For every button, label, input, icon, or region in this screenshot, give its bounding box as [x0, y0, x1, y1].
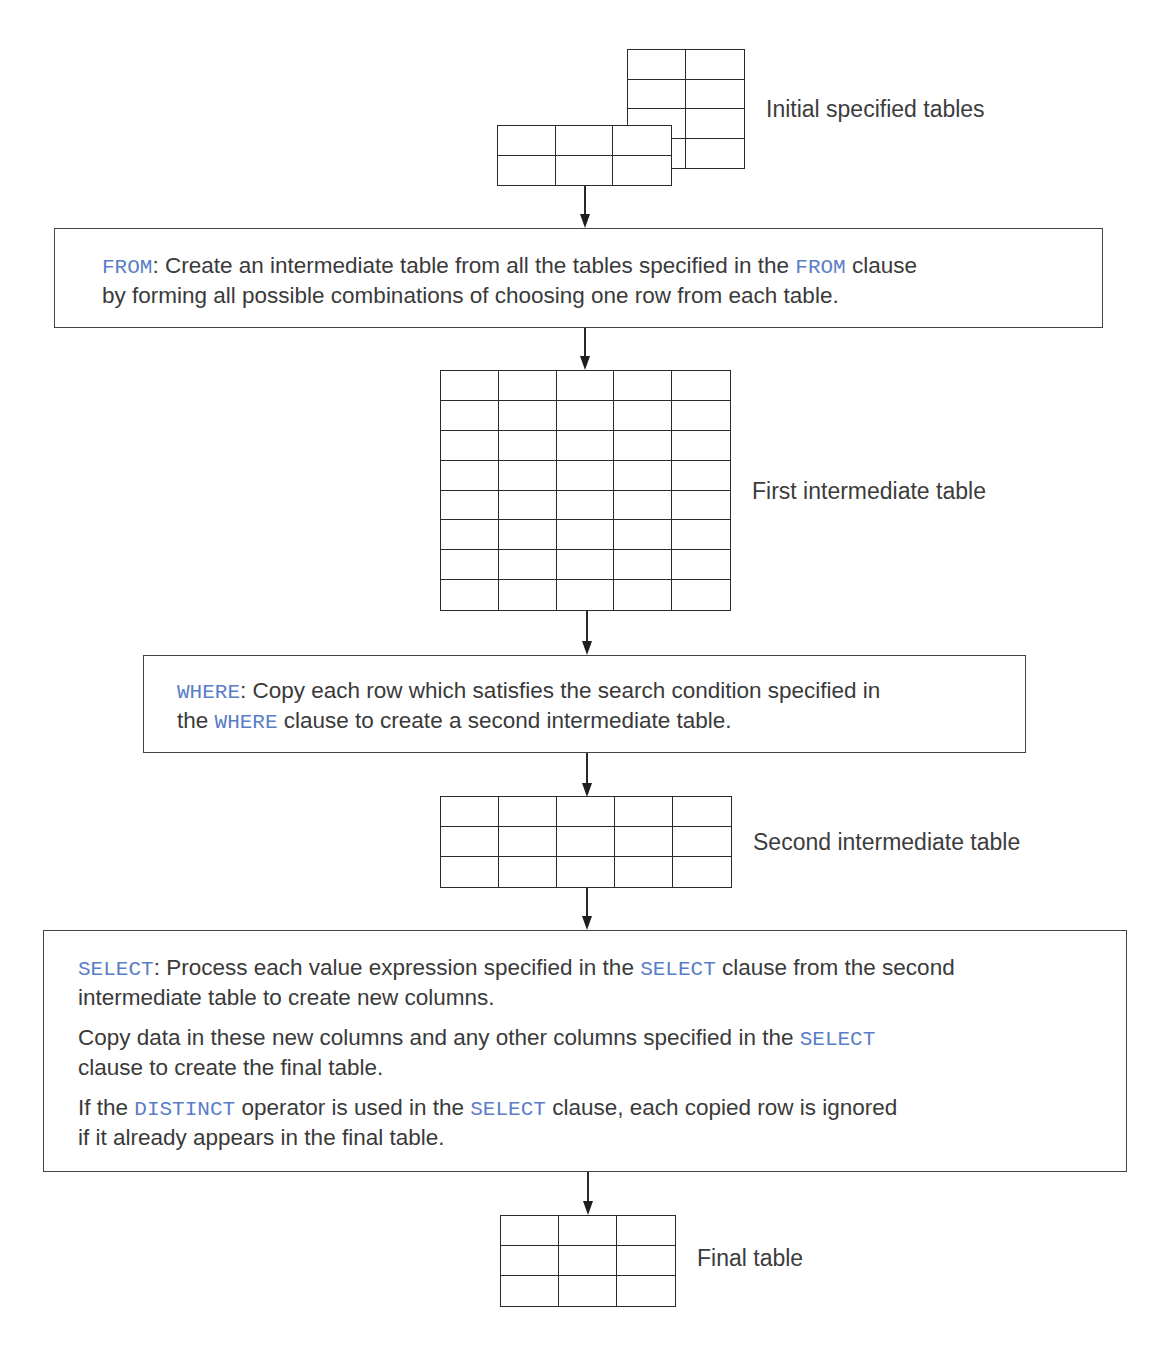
select-step-line-2: intermediate table to create new columns… [78, 984, 1126, 1012]
from-step-box: FROM: Create an intermediate table from … [54, 228, 1103, 328]
table-cell [559, 1216, 617, 1246]
arrowhead-icon [580, 356, 590, 370]
table-cell [556, 156, 614, 186]
table-cell [614, 491, 672, 521]
table-cell [441, 797, 499, 827]
table-cell [441, 580, 499, 610]
table-cell [441, 491, 499, 521]
select-text: clause, each copied row is ignored [546, 1095, 897, 1120]
table-cell [559, 1276, 617, 1306]
table-cell [672, 401, 730, 431]
table-cell [441, 857, 499, 887]
select-text: operator is used in the [235, 1095, 470, 1120]
table-cell [672, 580, 730, 610]
table-cell [499, 797, 557, 827]
arrowhead-icon [582, 641, 592, 655]
select-step-line-5: If the DISTINCT operator is used in the … [78, 1094, 1126, 1124]
table-cell [441, 431, 499, 461]
table-cell [557, 491, 615, 521]
table-cell [499, 371, 557, 401]
table-cell [628, 80, 686, 110]
where-step-line-1: WHERE: Copy each row which satisfies the… [177, 677, 1025, 707]
table-cell [673, 797, 731, 827]
table-cell [614, 520, 672, 550]
table-cell [686, 139, 744, 169]
first-intermediate-table [440, 370, 731, 611]
select-text: : Process each value expression specifie… [154, 955, 641, 980]
first-intermediate-label: First intermediate table [752, 478, 986, 505]
table-cell [686, 80, 744, 110]
table-cell [499, 491, 557, 521]
table-cell [557, 431, 615, 461]
table-cell [559, 1246, 617, 1276]
table-cell [615, 857, 673, 887]
table-cell [499, 520, 557, 550]
table-cell [441, 401, 499, 431]
select-keyword: SELECT [800, 1028, 876, 1051]
table-cell [672, 491, 730, 521]
select-text: If the [78, 1095, 134, 1120]
initial-tables-label: Initial specified tables [766, 96, 985, 123]
table-cell [614, 401, 672, 431]
table-cell [441, 827, 499, 857]
table-cell [672, 461, 730, 491]
final-table-label: Final table [697, 1245, 803, 1272]
where-keyword: WHERE [215, 711, 278, 734]
table-cell [614, 550, 672, 580]
table-cell [441, 550, 499, 580]
table-cell [498, 156, 556, 186]
table-cell [499, 401, 557, 431]
initial-table-front [497, 125, 672, 186]
table-cell [498, 126, 556, 156]
table-cell [557, 827, 615, 857]
table-cell [557, 857, 615, 887]
from-keyword: FROM [795, 256, 845, 279]
flow-arrow-line [587, 1172, 589, 1202]
table-cell [613, 126, 671, 156]
from-text: clause [846, 253, 917, 278]
table-cell [672, 431, 730, 461]
flow-arrow-line [584, 328, 586, 358]
table-cell [614, 580, 672, 610]
table-cell [686, 109, 744, 139]
arrowhead-icon [580, 214, 590, 228]
table-cell [556, 126, 614, 156]
table-cell [501, 1246, 559, 1276]
table-cell [672, 520, 730, 550]
table-cell [501, 1216, 559, 1246]
where-step-box: WHERE: Copy each row which satisfies the… [143, 655, 1026, 753]
table-cell [557, 461, 615, 491]
table-cell [673, 827, 731, 857]
from-keyword: FROM [102, 256, 152, 279]
arrowhead-icon [583, 1201, 593, 1215]
select-step-line-3: Copy data in these new columns and any o… [78, 1024, 1126, 1054]
table-cell [628, 50, 686, 80]
table-cell [441, 520, 499, 550]
flow-arrow-line [586, 888, 588, 918]
table-cell [557, 550, 615, 580]
table-cell [617, 1276, 675, 1306]
table-cell [615, 827, 673, 857]
table-cell [499, 431, 557, 461]
table-cell [557, 520, 615, 550]
table-cell [613, 156, 671, 186]
from-step-line-2: by forming all possible combinations of … [102, 282, 1102, 310]
second-intermediate-label: Second intermediate table [753, 829, 1020, 856]
table-cell [499, 550, 557, 580]
second-intermediate-table [440, 796, 732, 888]
table-cell [501, 1276, 559, 1306]
select-keyword: SELECT [78, 958, 154, 981]
flow-arrow-line [586, 611, 588, 643]
table-cell [673, 857, 731, 887]
table-cell [615, 797, 673, 827]
where-step-line-2: the WHERE clause to create a second inte… [177, 707, 1025, 737]
table-cell [499, 857, 557, 887]
where-text: clause to create a second intermediate t… [278, 708, 732, 733]
select-step-line-4: clause to create the final table. [78, 1054, 1126, 1082]
table-cell [617, 1246, 675, 1276]
where-text: : Copy each row which satisfies the sear… [240, 678, 880, 703]
select-text: clause from the second [716, 955, 955, 980]
where-text: the [177, 708, 215, 733]
arrowhead-icon [582, 916, 592, 930]
table-cell [499, 461, 557, 491]
